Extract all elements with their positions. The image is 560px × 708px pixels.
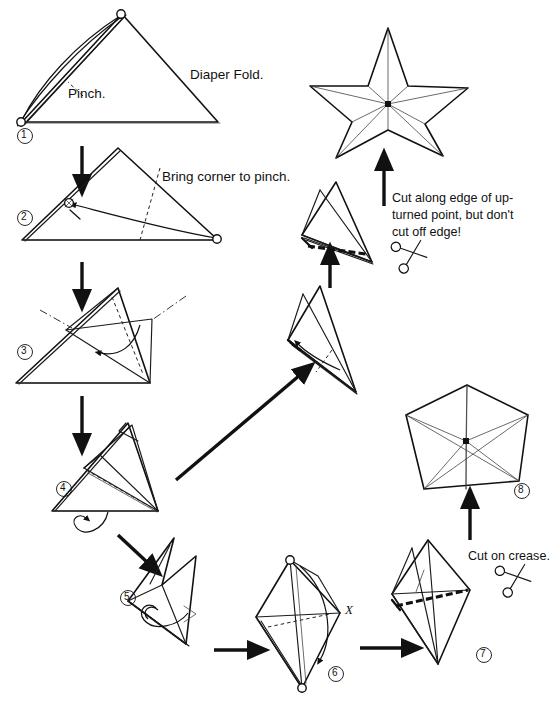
diagram-canvas (0, 0, 560, 708)
flow-arrow-4-5 (118, 535, 148, 563)
pinch-label: Pinch. (68, 85, 106, 102)
step-number-8: 8 (518, 484, 524, 497)
step-4-figure (52, 423, 158, 532)
corner-marker-right (213, 235, 221, 243)
step-2-figure (22, 148, 221, 243)
pentagon-center-marker (463, 438, 469, 444)
step-3-figure (16, 288, 186, 384)
step-number-4: 4 (60, 482, 66, 495)
result-star (310, 28, 468, 158)
cut-along-edge-line-2: turned point, but don't (392, 207, 513, 223)
cut-on-crease-label: Cut on crease. (468, 548, 550, 564)
step-6-figure (256, 556, 340, 692)
corner-marker-left (17, 118, 25, 126)
x-mark-label: X (345, 602, 353, 619)
diaper-fold-label: Diaper Fold. (190, 66, 264, 83)
step-number-6: 6 (332, 667, 338, 680)
star-center-marker (385, 101, 391, 107)
step-number-7: 7 (480, 648, 486, 661)
cut-along-edge-line-3: cut off edge! (392, 224, 461, 240)
origami-instruction-diagram: Diaper Fold. Pinch. Bring corner to pinc… (0, 0, 560, 708)
flow-arrow-4-6b (176, 375, 300, 480)
bring-corner-to-pinch-label: Bring corner to pinch. (162, 168, 290, 185)
step-number-3: 3 (21, 345, 27, 358)
cut-along-edge-line-1: Cut along edge of up- (392, 190, 513, 206)
corner-marker-top (117, 10, 125, 18)
corner-marker-step6-top (286, 556, 294, 564)
step-number-2: 2 (21, 211, 27, 224)
intermediate-figure-upper (302, 182, 373, 264)
corner-marker-step6-bottom (298, 684, 306, 692)
step-number-5: 5 (124, 591, 130, 604)
step-8-pentagon (406, 385, 528, 489)
step-7-figure (392, 540, 470, 664)
step-number-1: 1 (21, 129, 27, 142)
